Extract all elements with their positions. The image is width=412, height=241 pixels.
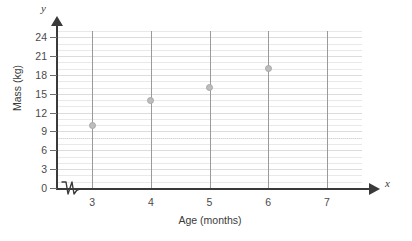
y-axis-tick-label: 6 [25,144,47,156]
y-axis-tick [50,94,57,95]
y-axis-tick [50,169,57,170]
data-point [206,84,213,91]
y-axis-tick [50,113,57,114]
vertical-gridline [268,31,269,188]
x-axis-tick-label: 3 [77,196,107,208]
y-axis-tick-labels: 03691215182124 [21,0,47,241]
y-axis-tick [50,188,57,189]
vertical-gridline [327,31,328,188]
data-point [89,122,96,129]
x-axis-letter: x [385,177,390,189]
y-axis-line [56,24,58,189]
y-axis-arrow-icon [51,16,63,26]
y-axis-tick [50,37,57,38]
y-axis-tick [50,131,57,132]
y-axis-tick-label: 12 [25,107,47,119]
x-axis-title: Age (months) [140,214,280,226]
vertical-gridline [210,31,211,188]
x-axis-tick-label: 4 [136,196,166,208]
x-axis-tick-label: 6 [253,196,283,208]
y-axis-tick [50,56,57,57]
x-axis-arrow-icon [369,183,380,195]
data-point [147,97,154,104]
x-axis-tick-label: 5 [195,196,225,208]
y-axis-tick-label: 24 [25,31,47,43]
plot-area [57,31,362,188]
y-axis-tick-label: 9 [25,125,47,137]
y-axis-tick-label: 3 [25,163,47,175]
y-axis-title: Mass (kg) [11,43,23,133]
y-axis-tick-label: 15 [25,88,47,100]
y-axis-tick-label: 18 [25,69,47,81]
y-axis-tick-label: 0 [25,182,47,194]
scatter-chart: y x 03691215182124 34567 Mass (kg) Age (… [0,0,412,241]
vertical-gridline [92,31,93,188]
data-point [265,65,272,72]
y-axis-tick-label: 21 [25,50,47,62]
x-axis-tick-label: 7 [312,196,342,208]
vertical-gridline [151,31,152,188]
y-axis-tick [50,150,57,151]
x-axis-line [56,188,371,190]
y-axis-tick [50,75,57,76]
